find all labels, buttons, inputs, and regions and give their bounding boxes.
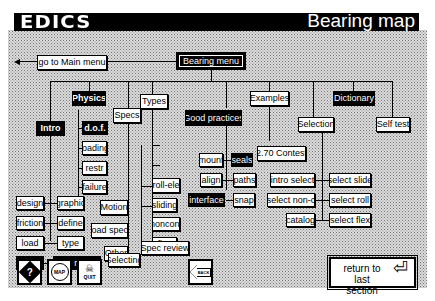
- return-label: return to last section: [337, 263, 387, 296]
- map-icon: MAP: [51, 263, 69, 281]
- go-to-main-menu-button[interactable]: go to Main menu: [37, 55, 107, 70]
- map-button[interactable]: MAP: [47, 259, 72, 285]
- select-slide-node[interactable]: select slide: [329, 173, 371, 187]
- seals-node[interactable]: seals: [231, 153, 253, 167]
- edics-logo: EDICS: [20, 13, 91, 31]
- mount-node[interactable]: mount: [199, 153, 223, 167]
- quit-button[interactable]: ☠ QUIT: [77, 259, 102, 285]
- page-title: Bearing map: [307, 11, 415, 31]
- help-button[interactable]: ?: [17, 259, 42, 285]
- catalog-node[interactable]: catalog: [286, 213, 315, 227]
- align-node[interactable]: align: [200, 173, 222, 187]
- intro-select-node[interactable]: intro select: [270, 173, 315, 187]
- select-flex-node[interactable]: select flex: [329, 213, 371, 227]
- self-test-node[interactable]: Self test: [376, 117, 410, 132]
- skull-icon: ☠: [85, 264, 94, 274]
- dof-node[interactable]: d.o.f.: [82, 121, 108, 135]
- spec-review-node[interactable]: Spec review: [141, 241, 189, 255]
- help-icon: ?: [18, 261, 41, 284]
- define-node[interactable]: define: [57, 216, 84, 230]
- paths-node[interactable]: paths: [233, 173, 256, 187]
- motion-node[interactable]: Motion: [100, 200, 128, 215]
- load-specs-node[interactable]: Load specs: [91, 223, 128, 238]
- return-to-last-section-button[interactable]: return to last section ⏎: [329, 257, 416, 288]
- noncont-node[interactable]: noncont: [152, 217, 180, 231]
- type-node[interactable]: type: [57, 236, 84, 250]
- good-practices-node[interactable]: Good practices: [185, 110, 242, 126]
- title-bar: EDICS Bearing map: [14, 13, 419, 31]
- design-node[interactable]: design: [16, 196, 44, 210]
- graphic-node[interactable]: graphic: [57, 196, 84, 210]
- friction-node[interactable]: friction: [16, 216, 44, 230]
- contest-node[interactable]: 2.70 Contest: [257, 146, 306, 161]
- select-non-c-node[interactable]: select non-c: [267, 193, 315, 207]
- restr-node[interactable]: restr: [82, 161, 107, 175]
- intro-node[interactable]: Intro: [36, 121, 65, 136]
- selection-node[interactable]: Selection: [298, 117, 334, 132]
- select-roll-node[interactable]: select roll: [329, 193, 371, 207]
- failure-node[interactable]: failure: [82, 180, 107, 194]
- snap-node[interactable]: snap: [233, 193, 255, 207]
- sliding-node[interactable]: sliding: [152, 198, 177, 212]
- loading-node[interactable]: loading: [82, 141, 107, 155]
- physics-node[interactable]: Physics: [72, 91, 106, 106]
- dictionary-node[interactable]: Dictionary: [333, 91, 375, 106]
- specs-node[interactable]: Specs: [113, 108, 141, 123]
- selecting-node[interactable]: Selecting: [108, 253, 140, 267]
- bearing-menu-button[interactable]: Bearing menu: [176, 52, 246, 70]
- interface-node[interactable]: interface: [188, 193, 225, 207]
- roll-ele-node[interactable]: roll-ele: [152, 178, 180, 193]
- examples-node[interactable]: Examples: [250, 91, 289, 106]
- load-node[interactable]: load: [16, 236, 44, 250]
- return-arrow-icon: ⏎: [393, 263, 408, 274]
- back-arrow-icon: BACK: [190, 265, 212, 279]
- back-button[interactable]: BACK: [188, 259, 213, 285]
- types-node[interactable]: Types: [140, 94, 168, 109]
